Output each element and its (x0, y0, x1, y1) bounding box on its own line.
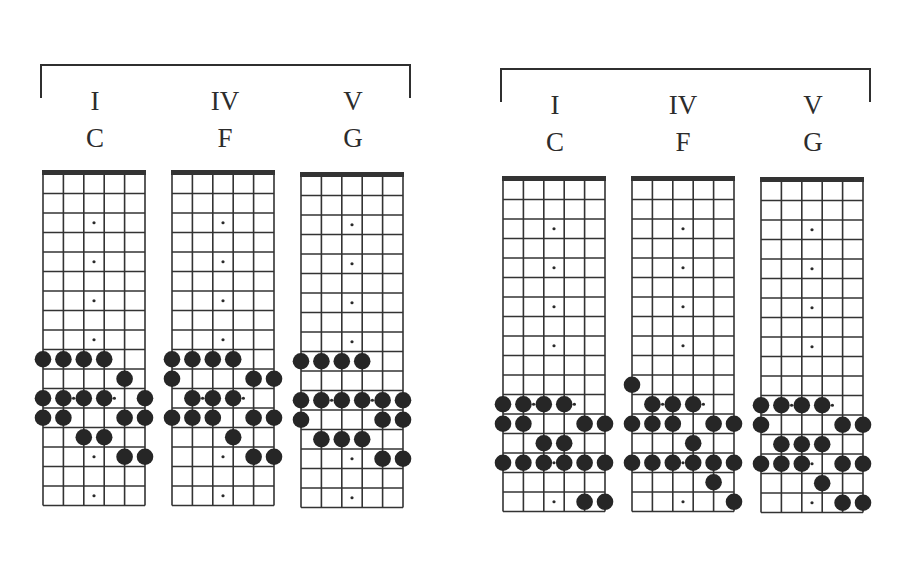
inlay-dot (552, 344, 555, 347)
nut (631, 176, 735, 181)
inlay-dot (810, 228, 813, 231)
inlay-dot (681, 461, 684, 464)
inlay-dot (552, 461, 555, 464)
note-marker (55, 390, 72, 407)
note-marker (334, 353, 351, 370)
note-marker (536, 454, 553, 471)
note-marker (313, 392, 330, 409)
note-marker (245, 448, 262, 465)
inlay-dot (221, 338, 224, 341)
inlay-dot (350, 223, 353, 226)
roman-numeral: IV (170, 86, 280, 116)
inlay-dot (330, 399, 333, 402)
note-marker (35, 351, 52, 368)
inlay-dot (113, 397, 116, 400)
inlay-dot (221, 455, 224, 458)
note-marker (495, 415, 512, 432)
note-marker (834, 416, 851, 433)
note-marker (313, 353, 330, 370)
note-marker (834, 494, 851, 511)
note-marker (395, 450, 412, 467)
note-marker (96, 351, 113, 368)
note-marker (855, 416, 872, 433)
note-marker (556, 435, 573, 452)
inlay-dot (790, 404, 793, 407)
inlay-dot (702, 403, 705, 406)
inlay-dot (552, 266, 555, 269)
fretboard-left-I-C (42, 170, 146, 506)
note-marker (334, 431, 351, 448)
inlay-dot (92, 299, 95, 302)
roman-numeral: I (40, 86, 150, 116)
note-marker (753, 397, 770, 414)
note-marker (556, 396, 573, 413)
note-marker (794, 436, 811, 453)
inlay-dot (681, 305, 684, 308)
note-marker (556, 454, 573, 471)
note-marker (705, 454, 722, 471)
inlay-dot (552, 305, 555, 308)
note-marker (184, 409, 201, 426)
note-marker (76, 429, 93, 446)
note-marker (96, 390, 113, 407)
nut (171, 170, 275, 175)
note-marker (354, 392, 371, 409)
note-marker (116, 370, 133, 387)
note-marker (245, 409, 262, 426)
note-marker (266, 409, 283, 426)
inlay-dot (810, 345, 813, 348)
note-marker (55, 409, 72, 426)
note-marker (395, 411, 412, 428)
note-marker (665, 415, 682, 432)
inlay-dot (221, 299, 224, 302)
inlay-dot (350, 457, 353, 460)
left-label-V: V G (298, 86, 408, 153)
inlay-dot (681, 344, 684, 347)
fretboard-left-V-G (300, 172, 404, 508)
note-marker (644, 454, 661, 471)
note-marker (726, 454, 743, 471)
inlay-dot (681, 227, 684, 230)
right-label-V: V G (758, 90, 868, 157)
chord-name: F (628, 127, 738, 157)
note-marker (515, 415, 532, 432)
inlay-dot (661, 403, 664, 406)
chord-name: C (500, 127, 610, 157)
chord-name: F (170, 123, 280, 153)
note-marker (624, 376, 641, 393)
note-marker (395, 392, 412, 409)
note-marker (773, 436, 790, 453)
inlay-dot (201, 397, 204, 400)
right-label-IV: IV F (628, 90, 738, 157)
note-marker (665, 454, 682, 471)
note-marker (35, 390, 52, 407)
note-marker (685, 396, 702, 413)
note-marker (164, 351, 181, 368)
note-marker (576, 415, 593, 432)
inlay-dot (350, 262, 353, 265)
note-marker (137, 409, 154, 426)
chord-name: G (758, 127, 868, 157)
note-marker (266, 370, 283, 387)
nut (42, 170, 146, 175)
note-marker (624, 454, 641, 471)
note-marker (536, 435, 553, 452)
note-marker (225, 429, 242, 446)
roman-numeral: IV (628, 90, 738, 120)
inlay-dot (221, 494, 224, 497)
inlay-dot (350, 340, 353, 343)
note-marker (665, 396, 682, 413)
note-marker (293, 392, 310, 409)
note-marker (35, 409, 52, 426)
inlay-dot (221, 260, 224, 263)
note-marker (137, 390, 154, 407)
roman-numeral: V (758, 90, 868, 120)
note-marker (705, 415, 722, 432)
note-marker (245, 370, 262, 387)
note-marker (794, 455, 811, 472)
inlay-dot (92, 338, 95, 341)
fretboard-left-IV-F (171, 170, 275, 506)
inlay-dot (350, 301, 353, 304)
note-marker (726, 493, 743, 510)
note-marker (597, 415, 614, 432)
